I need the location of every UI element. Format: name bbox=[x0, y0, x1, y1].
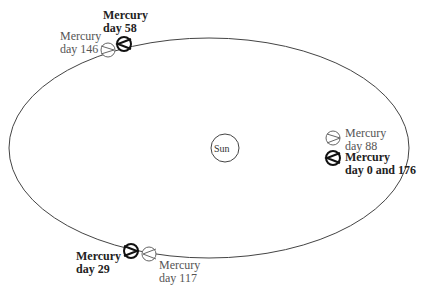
label-day58: Mercury day 58 bbox=[103, 9, 148, 35]
mercury-day117-icon bbox=[142, 247, 156, 261]
label-day146-line2: day 146 bbox=[60, 43, 101, 56]
label-day29: Mercury day 29 bbox=[76, 250, 121, 276]
mercury-day146-icon bbox=[101, 43, 115, 57]
label-day117: Mercury day 117 bbox=[159, 259, 200, 285]
label-day0-176-line2: day 0 and 176 bbox=[345, 164, 416, 177]
label-day58-line2: day 58 bbox=[103, 22, 148, 35]
label-day0-176: Mercury day 0 and 176 bbox=[345, 151, 416, 177]
mercury-day29-icon bbox=[124, 244, 138, 258]
mercury-day58-icon bbox=[117, 37, 131, 51]
mercury-day88-icon bbox=[326, 131, 340, 145]
label-day29-line2: day 29 bbox=[76, 263, 121, 276]
label-day146: Mercury day 146 bbox=[60, 30, 101, 56]
label-day117-line2: day 117 bbox=[159, 272, 200, 285]
sun-label: Sun bbox=[214, 142, 230, 155]
mercury-day0-176-icon bbox=[326, 151, 340, 165]
